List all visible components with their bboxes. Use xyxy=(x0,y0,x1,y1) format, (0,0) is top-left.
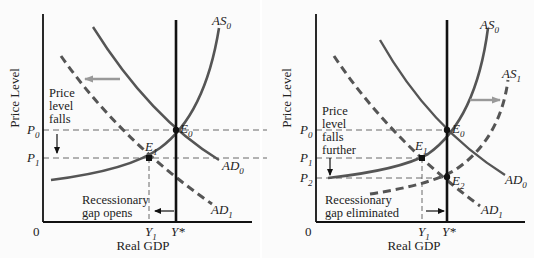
ad1-label: AD1 xyxy=(210,202,233,220)
ystar-tick-label-right: Y* xyxy=(442,224,456,239)
e0-point xyxy=(173,127,179,133)
ystar-tick-label: Y* xyxy=(171,224,185,239)
as1-label: AS1 xyxy=(501,66,521,84)
as0-label: AS0 xyxy=(211,13,231,31)
as0-label-right: AS0 xyxy=(479,17,499,35)
origin-label: 0 xyxy=(33,224,40,239)
ad0-curve-right xyxy=(380,40,505,175)
x-axis-label-right: Real GDP xyxy=(387,238,440,253)
left-chart: Price Level Real GDP 0 AS0 AD0 AD1 E0 E1… xyxy=(7,13,267,253)
price-falls-annotation: Price level falls xyxy=(49,86,78,126)
gap-eliminated-annotation: Recessionary gap eliminated xyxy=(325,193,400,220)
right-chart: Price Level Real GDP 0 AS0 AS1 AD0 AD1 E… xyxy=(279,14,527,253)
y-axis-label: Price Level xyxy=(7,68,22,128)
p1-tick-label-right: P1 xyxy=(299,150,312,168)
ad1-label-right: AD1 xyxy=(480,202,503,220)
p0-tick-label: P0 xyxy=(26,122,40,140)
p0-tick-label-right: P0 xyxy=(299,122,313,140)
e1-point xyxy=(146,155,152,161)
e1-label-right: E1 xyxy=(414,138,427,156)
y-axis-label-right: Price Level xyxy=(279,68,294,128)
price-falls-further-annotation: Price level falls further xyxy=(322,104,357,157)
ad0-label-right: AD0 xyxy=(504,172,527,190)
origin-label-right: 0 xyxy=(305,224,312,239)
p1-tick-label: P1 xyxy=(26,150,39,168)
p2-tick-label: P2 xyxy=(299,170,313,188)
ad0-label: AD0 xyxy=(221,158,244,176)
x-axis-label: Real GDP xyxy=(116,238,169,253)
ad-as-diagram: Price Level Real GDP 0 AS0 AD0 AD1 E0 E1… xyxy=(0,0,534,258)
e2-point xyxy=(444,174,450,180)
as1-curve xyxy=(370,80,508,194)
gap-opens-annotation: Recessionary gap opens xyxy=(82,193,152,220)
e0-point-right xyxy=(444,127,450,133)
